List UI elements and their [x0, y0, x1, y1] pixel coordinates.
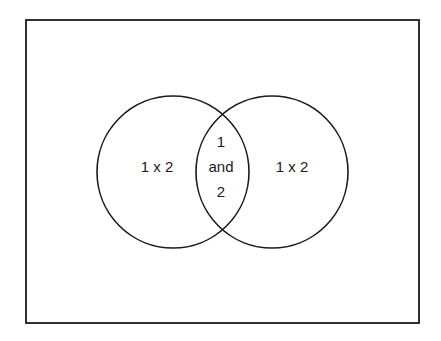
venn-diagram: 1 x 2 1 and 2 1 x 2	[0, 0, 441, 341]
left-region-label: 1 x 2	[141, 158, 174, 175]
intersection-line-1: 1	[217, 133, 225, 150]
right-region-label: 1 x 2	[276, 158, 309, 175]
intersection-line-2: and	[208, 158, 233, 175]
intersection-line-3: 2	[217, 183, 225, 200]
